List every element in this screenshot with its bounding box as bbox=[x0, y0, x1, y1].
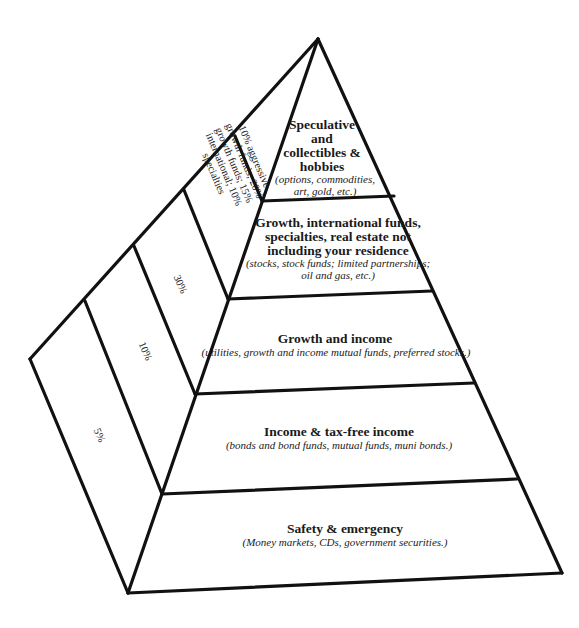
level-2-detail-line-2: oil and gas, etc.) bbox=[301, 269, 375, 282]
level-3-detail: (utilities, growth and income mutual fun… bbox=[202, 346, 471, 359]
level-2-title-line-2: specialties, real estate not bbox=[265, 229, 411, 244]
level-1-title-line-4: hobbies bbox=[300, 159, 344, 174]
level-5-title: Safety & emergency bbox=[287, 521, 403, 536]
level-4-title: Income & tax-free income bbox=[264, 424, 414, 439]
level-4-detail: (bonds and bond funds, mutual funds, mun… bbox=[226, 439, 452, 452]
level-1-title-line-3: collectibles & bbox=[283, 145, 361, 160]
level-1-detail-line-2: art, gold, etc.) bbox=[294, 185, 357, 198]
level-2-title-line-3: including your residence bbox=[267, 243, 408, 258]
level-2-title-line-1: Growth, international funds, bbox=[255, 215, 421, 230]
level-1-title-line-2: and bbox=[311, 131, 333, 146]
level-1-title-line-1: Speculative bbox=[289, 117, 355, 132]
level-5-detail: (Money markets, CDs, government securiti… bbox=[243, 536, 448, 549]
investment-pyramid-diagram: Speculative and collectibles & hobbies (… bbox=[0, 0, 579, 628]
level-3-title: Growth and income bbox=[278, 331, 393, 346]
